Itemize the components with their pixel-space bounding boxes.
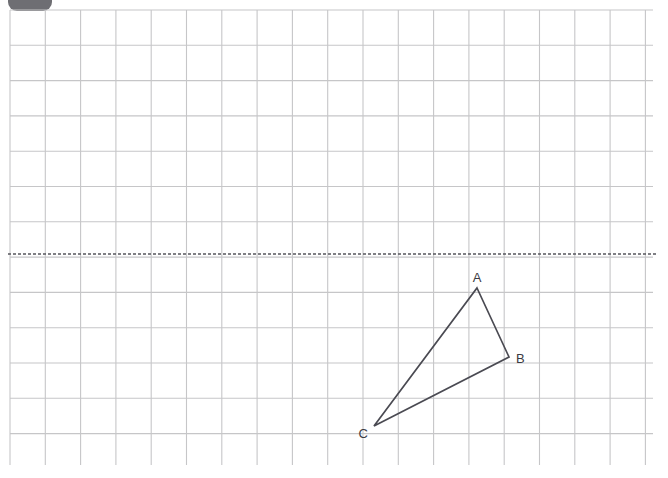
triangle-abc[interactable] — [374, 288, 509, 426]
figure-layer: ABC — [0, 0, 668, 478]
vertex-label-group: ABC — [359, 270, 525, 441]
worksheet-canvas: ABC — [0, 0, 668, 478]
vertex-label-b: B — [516, 351, 525, 366]
vertex-label-a: A — [473, 270, 482, 285]
vertex-label-c: C — [359, 426, 368, 441]
